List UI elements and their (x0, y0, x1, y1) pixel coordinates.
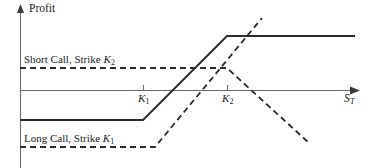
x-axis-label: ST (344, 93, 355, 107)
x-axis-label-subscript: T (350, 97, 355, 106)
bull-call-spread-figure: Profit ST Short Call, Strike K2 Long Cal… (0, 0, 377, 168)
legend-long-call-strike-subscript: 1 (110, 137, 114, 146)
legend-short-call-text: Short Call, Strike (24, 53, 103, 65)
y-axis-label: Profit (29, 3, 55, 15)
tick-label-k2: K2 (222, 93, 233, 106)
tick-label-k1-subscript: 1 (145, 97, 149, 106)
legend-short-call-strike-base: K (103, 53, 110, 65)
y-axis-arrowhead (17, 4, 24, 13)
legend-long-call: Long Call, Strike K1 (24, 133, 114, 146)
series-short-call-line (20, 68, 308, 142)
tick-label-k1: K1 (138, 93, 149, 106)
legend-short-call-strike-subscript: 2 (111, 58, 115, 67)
series-bull-spread-line (20, 36, 355, 120)
legend-long-call-text: Long Call, Strike (24, 132, 103, 144)
x-axis-label-base: S (344, 92, 350, 104)
legend-short-call: Short Call, Strike K2 (24, 54, 115, 67)
tick-label-k2-subscript: 2 (229, 97, 233, 106)
